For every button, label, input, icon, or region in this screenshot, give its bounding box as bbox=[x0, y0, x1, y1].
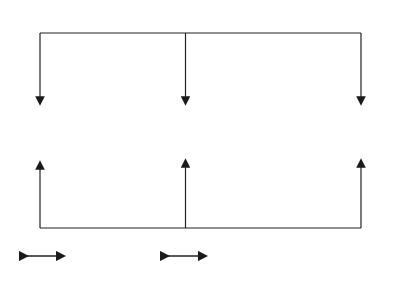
monitor-feedback-lines bbox=[40, 33, 361, 101]
diagram-connectors bbox=[0, 0, 420, 294]
control-feedback-lines bbox=[40, 163, 361, 228]
